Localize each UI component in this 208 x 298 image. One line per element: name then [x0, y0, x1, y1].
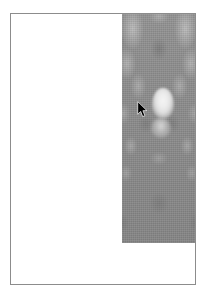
image-light-plumes — [122, 14, 196, 243]
white-canvas-area[interactable] — [11, 14, 195, 284]
document-window — [10, 13, 196, 285]
image-pixel-grain — [122, 14, 196, 243]
image-dark-mottling — [122, 14, 196, 243]
bright-blob-highlight — [152, 88, 174, 118]
bright-blob-secondary — [151, 118, 171, 138]
image-base-gradient — [122, 14, 196, 243]
grayscale-noise-image[interactable] — [122, 14, 196, 243]
